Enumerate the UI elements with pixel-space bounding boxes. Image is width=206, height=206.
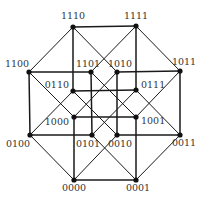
vertex-label: 1000: [45, 116, 69, 127]
vertex-label: 1101: [76, 58, 100, 69]
labels-layer: 1110111110110011000100000100110011011010…: [5, 10, 196, 193]
edge-0010-0110: [73, 91, 117, 135]
vertex-1101: [88, 69, 93, 74]
edge-0100-1100: [29, 72, 30, 135]
vertex-label: 0110: [45, 79, 69, 90]
vertex-label: 1011: [172, 56, 196, 67]
edges-layer: [29, 26, 180, 180]
vertex-label: 1100: [5, 58, 29, 69]
edge-0111-0101: [92, 90, 136, 135]
edge-1010-1000: [74, 72, 117, 117]
edge-1110-1111: [73, 26, 136, 27]
vertex-1001: [133, 114, 138, 119]
vertex-label: 1111: [124, 10, 148, 21]
vertex-label: 0011: [172, 137, 196, 148]
edge-0100-0110: [30, 91, 73, 135]
edge-1011-1001: [136, 71, 180, 117]
vertex-label: 0000: [62, 182, 86, 193]
edge-0011-0111: [136, 90, 180, 135]
vertex-label: 0101: [76, 138, 100, 149]
edge-1101-1001: [91, 72, 136, 117]
hypercube-diagram: 1110111110110011000100000100110011011010…: [0, 0, 206, 206]
vertex-label: 1001: [141, 115, 165, 126]
vertex-1100: [26, 69, 31, 74]
vertex-1000: [71, 114, 76, 119]
edge-0000-0100: [30, 135, 74, 180]
vertex-0100: [27, 132, 32, 137]
vertex-1010: [114, 69, 119, 74]
graph-svg: 1110111110110011000100000100110011011010…: [0, 0, 206, 206]
vertex-0010: [114, 132, 119, 137]
edge-1101-0101: [91, 72, 92, 135]
vertex-label: 1110: [61, 10, 85, 21]
vertex-1111: [133, 23, 138, 28]
edge-1011-1010: [117, 71, 180, 72]
vertex-label: 0001: [126, 182, 150, 193]
nodes-layer: [26, 23, 182, 182]
vertex-label: 0111: [141, 79, 165, 90]
vertex-0101: [89, 132, 94, 137]
vertex-1011: [177, 68, 182, 73]
vertex-label: 1010: [108, 58, 132, 69]
vertex-0110: [70, 88, 75, 93]
edge-1110-1100: [29, 27, 73, 72]
vertex-label: 0100: [6, 138, 30, 149]
vertex-0111: [133, 87, 138, 92]
vertex-label: 0010: [108, 138, 132, 149]
edge-0111-0110: [73, 90, 136, 91]
vertex-1110: [70, 24, 75, 29]
